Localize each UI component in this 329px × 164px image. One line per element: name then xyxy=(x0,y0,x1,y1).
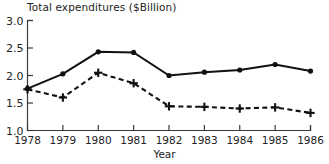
chart-plot-area: 1.01.52.02.53.0 197819791980198119821983… xyxy=(0,0,329,164)
y-axis-ticks xyxy=(28,21,34,131)
x-axis-tick-label: 1983 xyxy=(191,134,218,146)
data-point-marker xyxy=(23,85,31,93)
x-axis-tick-label: 1981 xyxy=(120,134,147,146)
x-axis-tick-label: 1978 xyxy=(14,134,41,146)
x-axis-tick-label: 1982 xyxy=(156,134,183,146)
data-point-marker xyxy=(308,69,313,74)
x-axis-ticks xyxy=(28,125,311,131)
data-point-marker xyxy=(237,67,242,72)
data-point-marker xyxy=(60,71,65,76)
x-axis-title: Year xyxy=(0,148,329,160)
x-axis-tick-label: 1984 xyxy=(226,134,253,146)
series-line-solid-series xyxy=(28,52,311,89)
data-point-marker xyxy=(202,70,207,75)
data-point-marker xyxy=(59,93,67,101)
data-point-marker xyxy=(200,103,208,111)
data-point-marker xyxy=(273,62,278,67)
data-point-marker xyxy=(94,69,102,77)
x-axis-tick-labels: 197819791980198119821983198419851986 xyxy=(14,134,324,146)
x-axis-tick-label: 1986 xyxy=(297,134,324,146)
y-axis-tick-label: 2.5 xyxy=(6,42,24,55)
y-axis-tick-label: 1.5 xyxy=(6,97,24,110)
x-axis-tick-label: 1979 xyxy=(50,134,77,146)
data-point-marker xyxy=(131,50,136,55)
data-point-marker xyxy=(306,109,314,117)
y-axis-tick-label: 2.0 xyxy=(6,70,24,83)
y-axis-tick-label: 3.0 xyxy=(6,15,24,28)
x-axis-tick-label: 1980 xyxy=(85,134,112,146)
x-axis-tick-label: 1985 xyxy=(262,134,289,146)
data-point-marker xyxy=(271,103,279,111)
y-axis-tick-labels: 1.01.52.02.53.0 xyxy=(6,15,24,138)
chart-container: Total expenditures ($Billion) 1.01.52.02… xyxy=(0,0,329,164)
data-point-marker xyxy=(96,49,101,54)
data-series-group xyxy=(23,49,314,117)
data-point-marker xyxy=(166,73,171,78)
data-point-marker xyxy=(236,104,244,112)
